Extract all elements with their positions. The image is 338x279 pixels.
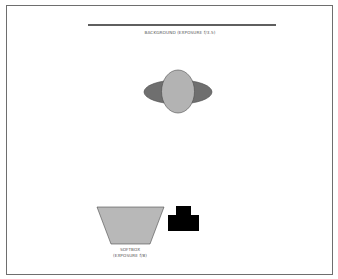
softbox-label-exposure: (EXPOSURE f/8) bbox=[100, 253, 160, 259]
background-label: BACKGROUND (EXPOSURE f/3.5) bbox=[130, 30, 230, 36]
background-label-text: BACKGROUND (EXPOSURE f/3.5) bbox=[145, 30, 216, 35]
subject-head bbox=[162, 70, 195, 113]
softbox-label: SOFTBOX (EXPOSURE f/8) bbox=[100, 247, 160, 259]
camera-body bbox=[168, 215, 199, 231]
softbox-shape bbox=[97, 207, 164, 244]
lighting-diagram bbox=[0, 0, 338, 279]
camera-top bbox=[176, 206, 191, 216]
